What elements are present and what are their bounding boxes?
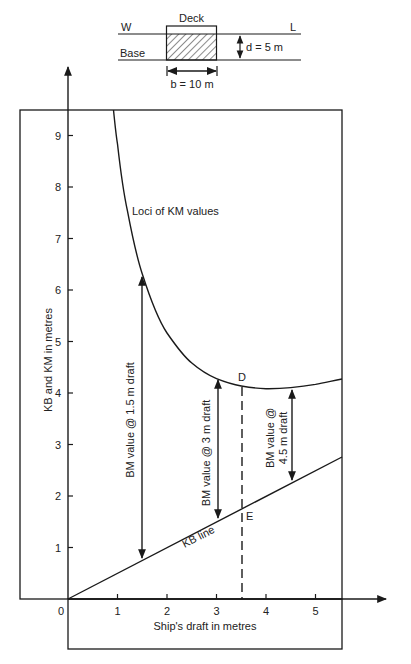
- vessel-inset: Deck W L Base d = 5 m b = 10 m: [118, 12, 301, 90]
- bm-1-5m-label: BM value @ 1.5 m draft: [124, 362, 136, 478]
- km-curve-label: Loci of KM values: [132, 205, 219, 217]
- svg-text:0: 0: [58, 605, 64, 617]
- svg-text:4: 4: [55, 387, 61, 399]
- km-curve: [114, 110, 343, 389]
- breadth-label: b = 10 m: [170, 78, 213, 90]
- svg-text:3: 3: [55, 439, 61, 451]
- bm-3m-label: BM value @ 3 m draft: [200, 400, 212, 507]
- depth-label: d = 5 m: [246, 41, 283, 53]
- x-ticks: [118, 594, 316, 599]
- point-d-label: D: [238, 371, 246, 383]
- bm-4-5m-label-line1: BM value @: [264, 408, 276, 468]
- y-tick-labels: 1 2 3 4 5 6 7 8 9: [55, 130, 61, 554]
- svg-text:3: 3: [213, 605, 219, 617]
- bm-4-5m-label-line2: 4.5 m draft: [277, 412, 289, 465]
- point-e-label: E: [246, 510, 253, 522]
- svg-text:7: 7: [55, 233, 61, 245]
- base-label: Base: [120, 47, 145, 59]
- l-label: L: [290, 21, 296, 33]
- hatched-section: [167, 34, 217, 60]
- svg-text:4: 4: [263, 605, 269, 617]
- deck-label: Deck: [179, 12, 205, 24]
- svg-text:8: 8: [55, 181, 61, 193]
- y-axis-label: KB and KM in metres: [42, 308, 54, 412]
- svg-text:9: 9: [55, 130, 61, 142]
- svg-text:1: 1: [114, 605, 120, 617]
- svg-text:2: 2: [164, 605, 170, 617]
- svg-text:2: 2: [55, 490, 61, 502]
- svg-text:5: 5: [55, 336, 61, 348]
- x-axis-label: Ship's draft in metres: [154, 620, 257, 632]
- svg-text:1: 1: [55, 542, 61, 554]
- svg-text:6: 6: [55, 284, 61, 296]
- km-diagram: Deck W L Base d = 5 m b = 10 m 0 1 2 3 4…: [0, 0, 411, 664]
- x-tick-labels: 0 1 2 3 4 5: [58, 605, 319, 617]
- kb-line-label: KB line: [180, 523, 217, 550]
- y-ticks: [68, 136, 73, 548]
- w-label: W: [121, 21, 132, 33]
- svg-text:5: 5: [312, 605, 318, 617]
